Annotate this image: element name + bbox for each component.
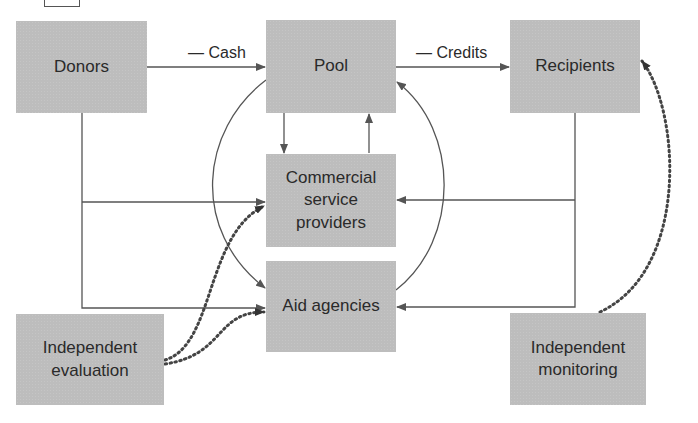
- evaluation-label: Independent evaluation: [43, 337, 138, 381]
- aid-agencies-node: Aid agencies: [266, 261, 396, 352]
- commercial-label: Commercial service providers: [286, 167, 377, 233]
- commercial-service-providers-node: Commercial service providers: [266, 154, 396, 247]
- donors-to-aid-line: [82, 113, 265, 308]
- pool-label: Pool: [314, 55, 348, 77]
- cash-label: — Cash: [188, 44, 246, 62]
- aid-label: Aid agencies: [282, 295, 379, 317]
- recipients-node: Recipients: [510, 20, 640, 113]
- independent-evaluation-node: Independent evaluation: [16, 314, 164, 405]
- evaluation-to-csp-dotted: [165, 206, 264, 360]
- flow-diagram: — Cash — Credits Donors Pool Recipients …: [0, 0, 698, 423]
- pool-to-aid-arc: [213, 80, 266, 288]
- donors-node: Donors: [16, 21, 147, 113]
- recipients-to-aid-line: [397, 113, 575, 307]
- pool-node: Pool: [266, 20, 396, 113]
- aid-to-pool-arc: [396, 82, 444, 290]
- evaluation-to-aid-dotted: [165, 312, 264, 364]
- credits-label: — Credits: [416, 44, 487, 62]
- recipients-label: Recipients: [535, 55, 614, 77]
- independent-monitoring-node: Independent monitoring: [510, 313, 646, 405]
- donors-label: Donors: [54, 56, 109, 78]
- monitoring-label: Independent monitoring: [531, 337, 626, 381]
